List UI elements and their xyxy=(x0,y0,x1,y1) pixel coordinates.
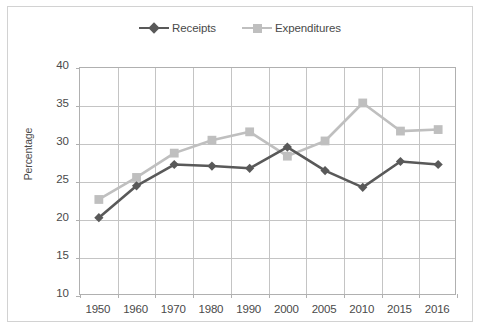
data-point-marker[interactable] xyxy=(94,195,103,204)
y-tick-label: 10 xyxy=(41,287,69,299)
x-tick-label: 2016 xyxy=(415,303,459,315)
series-expenditures xyxy=(94,99,442,204)
y-tick-label: 25 xyxy=(41,173,69,185)
y-tick-label: 35 xyxy=(41,97,69,109)
data-point-marker[interactable] xyxy=(132,173,141,182)
data-point-marker[interactable] xyxy=(245,127,254,136)
y-tick-label: 30 xyxy=(41,135,69,147)
y-axis-title: Percentage xyxy=(22,114,34,194)
y-tick-label: 20 xyxy=(41,211,69,223)
data-point-marker[interactable] xyxy=(396,127,405,136)
chart-container: Receipts Expenditures Percentage 1015202… xyxy=(0,0,480,330)
series-line xyxy=(99,147,438,218)
data-point-marker[interactable] xyxy=(434,125,443,134)
series-receipts xyxy=(94,142,443,222)
plot-area xyxy=(79,67,456,295)
data-point-marker[interactable] xyxy=(208,136,217,145)
x-tick-mark xyxy=(457,294,458,298)
data-point-marker[interactable] xyxy=(283,152,292,161)
y-tick-label: 40 xyxy=(41,59,69,71)
data-point-marker[interactable] xyxy=(358,99,367,108)
data-point-marker[interactable] xyxy=(434,160,443,169)
data-point-marker[interactable] xyxy=(207,161,216,170)
data-point-marker[interactable] xyxy=(170,149,179,158)
plot-wrapper: Percentage 10152025303540 19501960197019… xyxy=(0,0,480,330)
series-layer xyxy=(80,68,457,296)
y-tick-label: 15 xyxy=(41,249,69,261)
data-point-marker[interactable] xyxy=(321,137,330,146)
series-line xyxy=(99,103,438,200)
